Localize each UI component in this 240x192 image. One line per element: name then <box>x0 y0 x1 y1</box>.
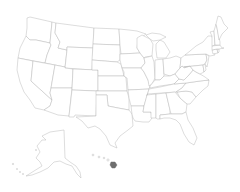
hawaii-island-maui <box>107 159 109 161</box>
state-colorado[interactable] <box>72 69 98 91</box>
state-wyoming[interactable] <box>65 47 93 70</box>
aleutian-island <box>35 149 36 150</box>
state-utah[interactable] <box>51 65 73 88</box>
state-washington[interactable] <box>26 17 52 43</box>
state-hawaii[interactable] <box>110 162 117 168</box>
state-alaska[interactable] <box>26 130 81 178</box>
state-new-mexico[interactable] <box>69 90 97 117</box>
aleutian-island <box>19 171 20 172</box>
state-indiana[interactable] <box>155 59 164 80</box>
us-state-map <box>0 0 240 192</box>
state-south-dakota[interactable] <box>92 44 120 62</box>
state-florida[interactable] <box>160 112 197 145</box>
aleutian-island <box>16 168 17 169</box>
hawaii-island-oahu <box>98 156 100 158</box>
contiguous-states <box>17 16 228 148</box>
aleutian-island <box>22 173 23 174</box>
state-montana[interactable] <box>55 23 94 50</box>
hawaii-island-molokai <box>103 157 105 159</box>
alaska-group <box>12 130 81 178</box>
state-north-dakota[interactable] <box>93 28 120 45</box>
hawaii-group <box>92 154 117 168</box>
state-new-york[interactable] <box>185 36 215 56</box>
state-iowa[interactable] <box>120 53 145 68</box>
hawaii-island-kauai <box>92 154 94 156</box>
state-michigan-lower[interactable] <box>156 40 170 58</box>
aleutian-island <box>12 163 13 164</box>
state-kansas[interactable] <box>98 76 127 91</box>
